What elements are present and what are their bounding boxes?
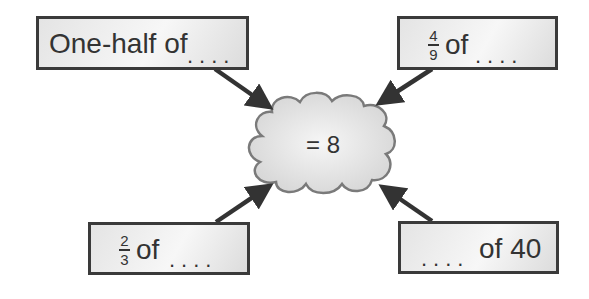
box-text: One-half of — [49, 30, 188, 58]
box-blank-of-40: .... of 40 — [398, 221, 559, 274]
arrow-top-left — [215, 69, 268, 106]
arrow-bottom-right — [384, 188, 432, 221]
box-four-ninths-of: 4 9 of .... — [397, 16, 558, 70]
arrow-bottom-left — [216, 187, 268, 222]
blank-dots: .... — [187, 43, 235, 69]
arrow-top-right — [381, 69, 432, 102]
box-two-thirds-of: 2 3 of .... — [88, 222, 250, 275]
cloud-result-label: = 8 — [306, 131, 340, 159]
denominator: 3 — [120, 252, 128, 267]
blank-dots: .... — [169, 247, 217, 273]
fraction-two-thirds: 2 3 — [119, 233, 130, 267]
numerator: 4 — [429, 28, 437, 43]
box-text: of — [136, 236, 159, 264]
blank-dots: .... — [475, 43, 523, 69]
box-one-half-of: One-half of .... — [36, 16, 249, 70]
box-text: of — [445, 31, 468, 59]
blank-dots: .... — [421, 246, 469, 272]
fraction-four-ninths: 4 9 — [428, 28, 439, 62]
numerator: 2 — [120, 233, 128, 248]
box-text: of 40 — [479, 235, 541, 263]
denominator: 9 — [429, 47, 437, 62]
